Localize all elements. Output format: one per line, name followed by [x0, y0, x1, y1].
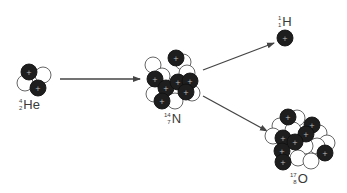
- mass-number: 14: [164, 112, 171, 119]
- arrow-n-to-h: [203, 43, 274, 70]
- mass-number: 1: [278, 15, 281, 22]
- label-nitrogen-14: 14 7 N: [164, 110, 181, 126]
- nucleus-n14: +++++++: [145, 50, 200, 109]
- plus-charge-icon: +: [322, 150, 328, 158]
- isotope-numbers: 14 7: [164, 112, 171, 126]
- element-symbol: H: [282, 14, 291, 29]
- nuclear-reaction-diagram: ++++++++++++++++++ 4 2 He 14 7 N 1 1 H 1…: [0, 0, 347, 193]
- plus-charge-icon: +: [163, 85, 169, 93]
- plus-charge-icon: +: [292, 139, 298, 147]
- isotope-numbers: 4 2: [19, 98, 22, 112]
- nuclei: ++++++++++++++++++: [17, 30, 335, 170]
- plus-charge-icon: +: [280, 159, 286, 167]
- plus-charge-icon: +: [285, 114, 291, 122]
- plus-charge-icon: +: [303, 131, 309, 139]
- mass-number: 4: [19, 98, 22, 105]
- arrow-n-to-o: [203, 96, 267, 131]
- plus-charge-icon: +: [280, 135, 286, 143]
- plus-charge-icon: +: [282, 35, 288, 43]
- isotope-numbers: 1 1: [278, 15, 281, 29]
- plus-charge-icon: +: [35, 85, 41, 93]
- neutron-icon: [303, 153, 319, 169]
- atomic-number: 2: [19, 105, 22, 112]
- label-helium-4: 4 2 He: [19, 96, 40, 112]
- mass-number: 17: [290, 172, 297, 179]
- plus-charge-icon: +: [183, 89, 189, 97]
- isotope-numbers: 17 8: [290, 172, 297, 186]
- atomic-number: 1: [278, 22, 281, 29]
- plus-charge-icon: +: [26, 69, 32, 77]
- plus-charge-icon: +: [152, 76, 158, 84]
- element-symbol: N: [172, 111, 181, 126]
- atomic-number: 8: [293, 179, 296, 186]
- nucleus-o17: ++++++++: [265, 109, 335, 170]
- label-hydrogen-1: 1 1 H: [278, 13, 292, 29]
- diagram-canvas: ++++++++++++++++++: [0, 0, 347, 193]
- element-symbol: He: [23, 97, 40, 112]
- plus-charge-icon: +: [175, 79, 181, 87]
- plus-charge-icon: +: [173, 55, 179, 63]
- nucleus-he4: ++: [17, 64, 51, 96]
- label-oxygen-17: 17 8 O: [290, 170, 308, 186]
- nucleus-h1: +: [277, 30, 293, 46]
- atomic-number: 7: [167, 119, 170, 126]
- plus-charge-icon: +: [159, 98, 165, 106]
- element-symbol: O: [298, 171, 308, 186]
